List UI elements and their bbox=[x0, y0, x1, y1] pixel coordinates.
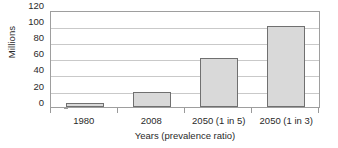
bar-1980 bbox=[66, 103, 104, 107]
bar-chart-figure: Millions 120 100 80 60 40 20 0 bbox=[0, 0, 338, 148]
plot-area bbox=[50, 11, 320, 108]
bar-slot bbox=[51, 12, 118, 107]
x-axis-title: Years (prevalence ratio) bbox=[50, 130, 320, 142]
bar-slot bbox=[118, 12, 185, 107]
y-tick-label: 40 bbox=[18, 65, 44, 75]
bar-2050-1-in-3 bbox=[267, 26, 305, 107]
y-tick-label: 120 bbox=[18, 1, 44, 11]
bars-layer bbox=[51, 12, 319, 107]
x-axis-tick-mark-group bbox=[50, 108, 320, 113]
bar-slot bbox=[252, 12, 319, 107]
y-axis-tick-label-group: 120 100 80 60 40 20 0 bbox=[18, 6, 44, 112]
bar-2050-1-in-5 bbox=[200, 58, 238, 107]
x-tick-mark bbox=[50, 108, 51, 113]
y-tick-label: 80 bbox=[18, 33, 44, 43]
x-tick-mark bbox=[117, 108, 118, 113]
x-tick-label: 2050 (1 in 3) bbox=[253, 114, 321, 127]
x-axis-tick-label-group: 1980 2008 2050 (1 in 5) 2050 (1 in 3) bbox=[50, 114, 320, 127]
y-tick-label: 60 bbox=[18, 49, 44, 59]
y-axis-title: Millions bbox=[6, 12, 18, 72]
x-tick-label: 1980 bbox=[50, 114, 118, 127]
x-tick-label: 2050 (1 in 5) bbox=[185, 114, 253, 127]
x-tick-mark bbox=[318, 108, 319, 113]
x-tick-mark bbox=[251, 108, 252, 113]
y-tick-label: 100 bbox=[18, 17, 44, 27]
y-tick-label: 0 bbox=[18, 98, 44, 108]
x-tick-mark bbox=[184, 108, 185, 113]
bar-slot bbox=[185, 12, 252, 107]
x-tick-label: 2008 bbox=[118, 114, 186, 127]
y-tick-label: 20 bbox=[18, 82, 44, 92]
bar-2008 bbox=[133, 92, 171, 107]
